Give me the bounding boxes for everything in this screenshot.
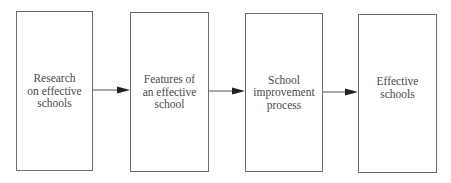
arrow-improvement-to-effective xyxy=(323,89,358,96)
label-line: process xyxy=(253,99,314,112)
label-line: Effective xyxy=(377,75,419,88)
node-research-on-effective-schools: Research on effective schools xyxy=(16,11,93,171)
node-label: Research on effective schools xyxy=(27,72,81,110)
label-line: on effective xyxy=(27,85,81,98)
arrow-research-to-features xyxy=(93,87,130,94)
label-line: schools xyxy=(377,88,419,101)
label-line: Research xyxy=(27,72,81,85)
node-features-of-effective-school: Features of an effective school xyxy=(130,12,209,172)
node-label: Effective schools xyxy=(377,75,419,100)
label-line: school xyxy=(143,98,197,111)
arrowhead-icon xyxy=(232,88,245,95)
node-school-improvement-process: School improvement process xyxy=(245,13,323,172)
arrow-features-to-improvement xyxy=(209,88,245,95)
label-line: improvement xyxy=(253,86,314,99)
arrowhead-icon xyxy=(345,89,358,96)
label-line: an effective xyxy=(143,86,197,99)
node-label: Features of an effective school xyxy=(143,73,197,111)
label-line: School xyxy=(253,74,314,87)
node-effective-schools: Effective schools xyxy=(358,14,437,173)
node-label: School improvement process xyxy=(253,74,314,112)
label-line: Features of xyxy=(143,73,197,86)
label-line: schools xyxy=(27,97,81,110)
arrowhead-icon xyxy=(117,87,130,94)
